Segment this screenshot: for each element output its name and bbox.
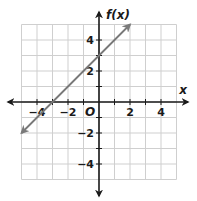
y-tick-label: −2 <box>77 127 94 140</box>
x-axis-label: x <box>178 83 188 97</box>
origin-label: O <box>85 105 95 119</box>
coordinate-plane: −4−22442−2−4Oxf(x) <box>0 0 197 201</box>
x-tick-label: 2 <box>126 106 134 119</box>
y-tick-label: 4 <box>86 34 94 47</box>
y-tick-label: −4 <box>77 158 94 171</box>
x-tick-label: −2 <box>60 106 77 119</box>
y-axis-label: f(x) <box>106 8 130 22</box>
x-tick-label: 4 <box>157 106 165 119</box>
